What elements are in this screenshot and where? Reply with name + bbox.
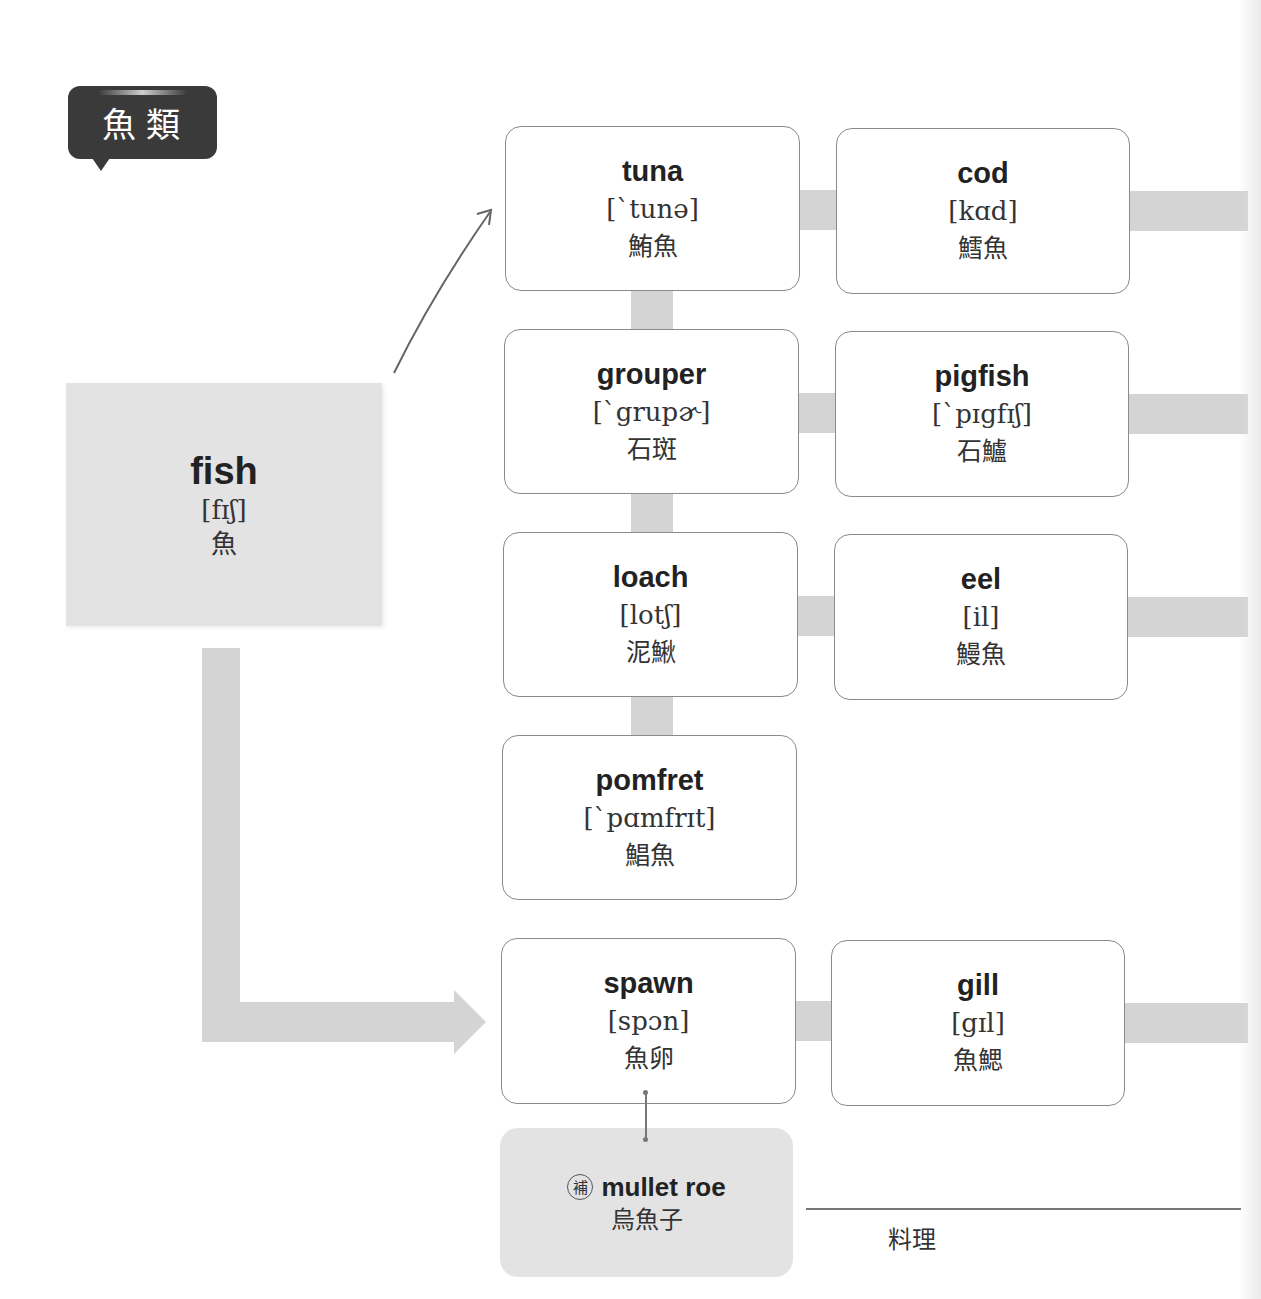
- word-ipa: [kɑd]: [948, 191, 1017, 231]
- root-word-ipa: [fɪʃ]: [201, 493, 246, 527]
- word-card-loach: loach [lotʃ] 泥鰍: [503, 532, 798, 697]
- category-title-bubble: 魚類: [68, 86, 217, 159]
- connector-dot-top: [643, 1090, 648, 1095]
- word-card-spawn: spawn [spɔn] 魚卵: [501, 938, 796, 1104]
- word-zh: 鮪魚: [628, 229, 678, 265]
- word-ipa: [ˋgrupɚ]: [593, 392, 711, 432]
- word-en: eel: [961, 561, 1001, 597]
- bubble-tail: [90, 155, 112, 171]
- connector-loach-eel: [798, 596, 838, 636]
- connector-eel-right: [1125, 597, 1248, 637]
- connector-dot-bottom: [643, 1137, 648, 1142]
- l-arrow-horizontal: [202, 1002, 458, 1042]
- section-divider: [806, 1208, 1241, 1210]
- word-zh: 石鱸: [957, 434, 1007, 470]
- word-ipa: [ˋpɑmfrɪt]: [583, 798, 715, 838]
- word-zh: 泥鰍: [626, 635, 676, 671]
- l-arrow-head-icon: [454, 990, 490, 1054]
- word-ipa: [spɔn]: [608, 1001, 690, 1041]
- word-card-tuna: tuna [ˋtunə] 鮪魚: [505, 126, 800, 291]
- category-title: 魚類: [102, 98, 190, 147]
- connector-grouper-loach: [631, 492, 673, 534]
- word-en: cod: [957, 155, 1009, 191]
- root-word-zh: 魚: [211, 527, 237, 561]
- word-ipa: [ˋtunə]: [606, 189, 699, 229]
- word-zh: 石斑: [627, 432, 677, 468]
- next-section-label: 料理: [888, 1220, 936, 1255]
- word-zh: 鱈魚: [958, 231, 1008, 267]
- word-en: pigfish: [934, 358, 1029, 394]
- l-arrow-vertical: [202, 648, 240, 1042]
- word-en: gill: [957, 967, 999, 1003]
- connector-gill-right: [1122, 1003, 1248, 1043]
- connector-tuna-grouper: [631, 290, 673, 332]
- root-word-en: fish: [190, 449, 258, 493]
- word-zh: 魚鰓: [953, 1043, 1003, 1079]
- word-en: pomfret: [596, 762, 704, 798]
- supplement-connector-line: [645, 1092, 647, 1140]
- word-card-pigfish: pigfish [ˋpɪgfɪʃ] 石鱸: [835, 331, 1129, 497]
- supplement-card: 補 mullet roe 烏魚子: [500, 1128, 793, 1277]
- word-en: grouper: [597, 356, 707, 392]
- word-card-eel: eel [il] 鰻魚: [834, 534, 1128, 700]
- root-word-card: fish [fɪʃ] 魚: [66, 383, 382, 626]
- word-ipa: [lotʃ]: [620, 595, 682, 635]
- curved-arrow-icon: [385, 200, 505, 380]
- connector-spawn-gill: [795, 1001, 835, 1041]
- page-edge-shadow: [1239, 0, 1261, 1299]
- connector-cod-right: [1128, 191, 1248, 231]
- connector-pigfish-right: [1126, 394, 1248, 434]
- word-en: tuna: [622, 153, 683, 189]
- word-card-gill: gill [gɪl] 魚鰓: [831, 940, 1125, 1106]
- supplement-badge-icon: 補: [567, 1174, 593, 1200]
- word-zh: 鰻魚: [956, 637, 1006, 673]
- word-zh: 魚卵: [624, 1041, 674, 1077]
- word-ipa: [gɪl]: [951, 1003, 1005, 1043]
- supplement-en: mullet roe: [601, 1170, 725, 1204]
- word-ipa: [il]: [963, 597, 1000, 637]
- connector-grouper-pigfish: [798, 393, 838, 433]
- connector-loach-pomfret: [631, 695, 673, 737]
- word-en: spawn: [603, 965, 693, 1001]
- word-card-pomfret: pomfret [ˋpɑmfrɪt] 鯧魚: [502, 735, 797, 900]
- word-en: loach: [613, 559, 689, 595]
- connector-tuna-cod: [798, 190, 838, 230]
- supplement-zh: 烏魚子: [611, 1204, 683, 1236]
- word-card-cod: cod [kɑd] 鱈魚: [836, 128, 1130, 294]
- word-zh: 鯧魚: [625, 838, 675, 874]
- word-card-grouper: grouper [ˋgrupɚ] 石斑: [504, 329, 799, 494]
- word-ipa: [ˋpɪgfɪʃ]: [932, 394, 1032, 434]
